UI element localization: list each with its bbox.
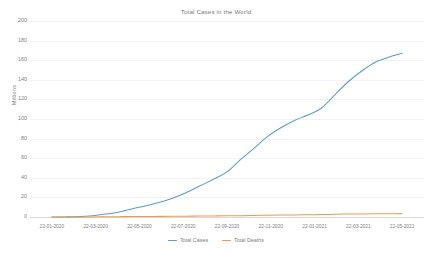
legend-swatch-icon — [168, 240, 177, 241]
legend-label: Total Cases — [180, 238, 208, 243]
x-axis-tick-label: 22-11-2020 — [259, 225, 283, 230]
y-axis-tick-label: 40 — [1, 175, 27, 180]
legend-entry[interactable]: Total Cases — [168, 238, 208, 243]
y-axis-tick-label: 60 — [1, 155, 27, 160]
y-axis-tick-label: 180 — [1, 38, 27, 43]
x-axis-ticks: 22-01-202022-03-202022-05-202022-07-2020… — [30, 225, 424, 235]
y-axis-tick-label: 140 — [1, 77, 27, 82]
legend-label: Total Deaths — [234, 238, 264, 243]
y-axis-tick-label: 160 — [1, 57, 27, 62]
x-axis-tick-label: 22-03-2021 — [346, 225, 371, 230]
x-axis-tick-label: 22-09-2020 — [215, 225, 240, 230]
y-axis-tick-label: 20 — [1, 195, 27, 200]
x-axis-tick-label: 22-01-2020 — [40, 225, 65, 230]
chart-container: Total Cases in the World Millions 200180… — [0, 0, 432, 254]
y-axis-tick-label: 80 — [1, 136, 27, 141]
legend-entry[interactable]: Total Deaths — [222, 238, 264, 243]
x-axis-tick-label: 22-03-2020 — [83, 225, 108, 230]
chart-title: Total Cases in the World — [0, 7, 432, 16]
chart-legend: Total CasesTotal Deaths — [0, 238, 432, 243]
x-axis-tick-label: 22-07-2020 — [171, 225, 196, 230]
x-axis-tick-label: 22-05-2020 — [127, 225, 152, 230]
y-axis-tick-label: 200 — [1, 18, 27, 23]
y-axis-tick-label: 100 — [1, 116, 27, 121]
plot-area: 200180160140120100806040200 — [30, 21, 424, 217]
series-line — [52, 53, 402, 217]
y-axis-tick-label: 0 — [1, 214, 27, 219]
legend-swatch-icon — [222, 240, 231, 241]
x-axis-tick-label: 22-01-2021 — [302, 225, 327, 230]
y-axis-tick-label: 120 — [1, 97, 27, 102]
series-lines — [30, 21, 424, 217]
x-axis-tick-label: 22-05-2021 — [390, 225, 415, 230]
